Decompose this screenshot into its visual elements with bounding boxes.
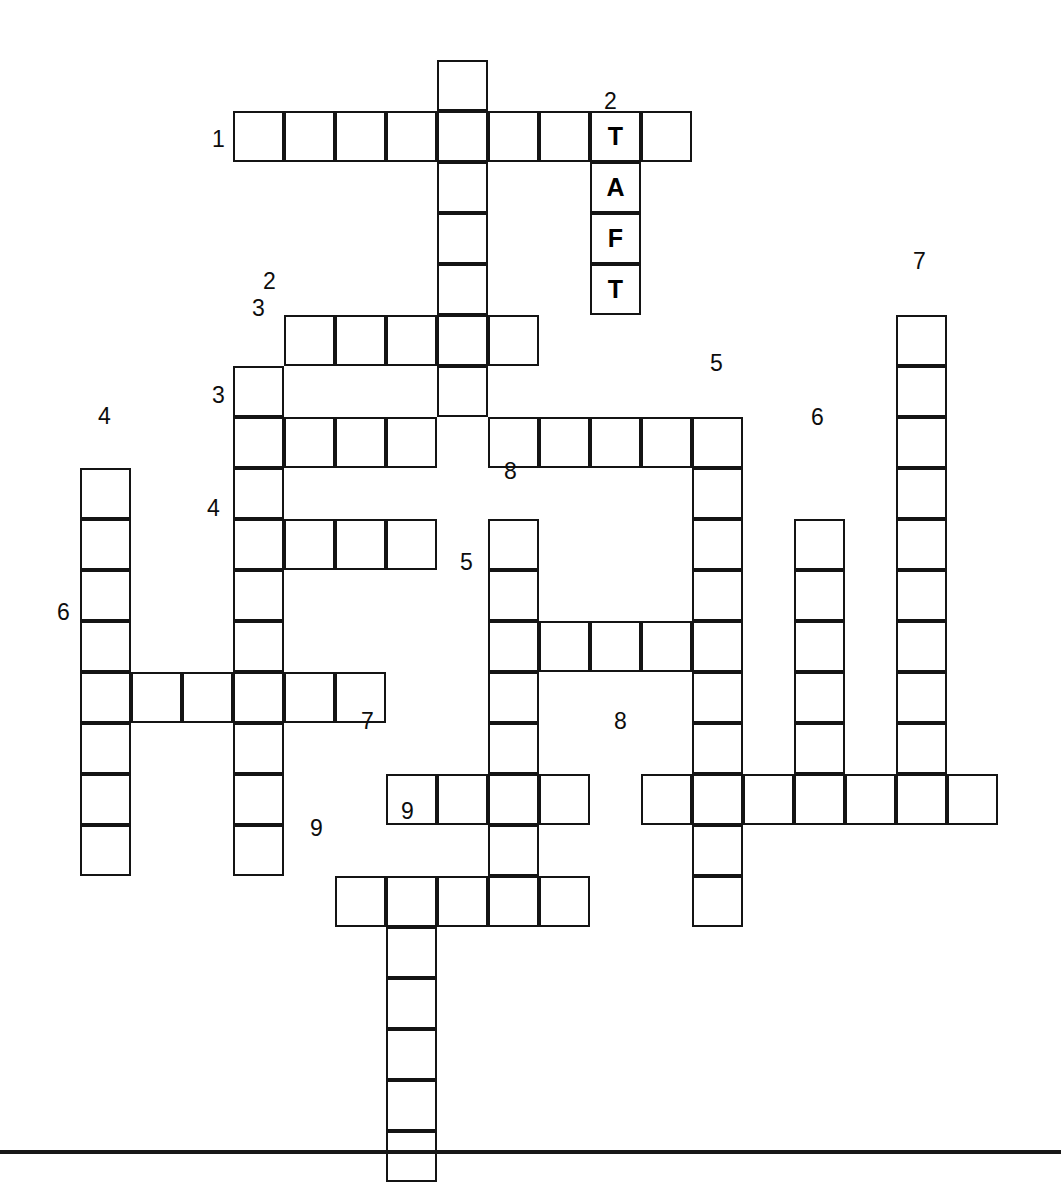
crossword-cell-empty[interactable]: [794, 621, 845, 672]
crossword-cell-empty[interactable]: [896, 570, 947, 621]
crossword-cell-empty[interactable]: [641, 417, 692, 468]
crossword-cell-empty[interactable]: [692, 621, 743, 672]
crossword-cell-empty[interactable]: [80, 672, 131, 723]
crossword-cell-empty[interactable]: [437, 366, 488, 417]
crossword-cell-empty[interactable]: [80, 825, 131, 876]
crossword-cell-empty[interactable]: [488, 723, 539, 774]
crossword-cell-empty[interactable]: [896, 315, 947, 366]
crossword-cell-empty[interactable]: [386, 876, 437, 927]
crossword-cell-empty[interactable]: [896, 774, 947, 825]
crossword-cell-empty[interactable]: [233, 570, 284, 621]
crossword-cell-empty[interactable]: [335, 315, 386, 366]
crossword-cell-empty[interactable]: [539, 417, 590, 468]
crossword-cell-empty[interactable]: [386, 519, 437, 570]
crossword-cell-empty[interactable]: [488, 111, 539, 162]
crossword-cell-empty[interactable]: [896, 468, 947, 519]
crossword-cell-empty[interactable]: [386, 1131, 437, 1182]
crossword-cell-empty[interactable]: [80, 570, 131, 621]
crossword-cell-empty[interactable]: [80, 468, 131, 519]
crossword-cell-empty[interactable]: [488, 774, 539, 825]
crossword-cell-empty[interactable]: [692, 825, 743, 876]
crossword-cell-empty[interactable]: [488, 519, 539, 570]
crossword-cell-empty[interactable]: [284, 111, 335, 162]
crossword-cell-empty[interactable]: [641, 111, 692, 162]
crossword-cell-empty[interactable]: [539, 876, 590, 927]
crossword-cell-empty[interactable]: [386, 1029, 437, 1080]
crossword-cell-empty[interactable]: [692, 723, 743, 774]
crossword-cell-empty[interactable]: [794, 774, 845, 825]
crossword-cell-empty[interactable]: [233, 774, 284, 825]
crossword-cell-empty[interactable]: [335, 417, 386, 468]
crossword-cell-empty[interactable]: [386, 315, 437, 366]
crossword-cell-empty[interactable]: [284, 315, 335, 366]
crossword-cell-empty[interactable]: [437, 213, 488, 264]
crossword-cell-empty[interactable]: [437, 264, 488, 315]
crossword-cell-empty[interactable]: [539, 774, 590, 825]
crossword-cell-empty[interactable]: [386, 111, 437, 162]
crossword-cell-empty[interactable]: [692, 570, 743, 621]
crossword-cell-empty[interactable]: [80, 519, 131, 570]
crossword-cell-empty[interactable]: [692, 417, 743, 468]
crossword-cell-empty[interactable]: [488, 315, 539, 366]
crossword-cell-empty[interactable]: [233, 825, 284, 876]
crossword-cell-empty[interactable]: [335, 111, 386, 162]
crossword-cell-empty[interactable]: [488, 672, 539, 723]
crossword-cell-empty[interactable]: [488, 825, 539, 876]
crossword-cell-empty[interactable]: [794, 672, 845, 723]
crossword-cell-empty[interactable]: [437, 315, 488, 366]
crossword-cell-empty[interactable]: [233, 723, 284, 774]
crossword-cell-empty[interactable]: [233, 417, 284, 468]
crossword-cell-empty[interactable]: [335, 519, 386, 570]
crossword-cell-empty[interactable]: [233, 111, 284, 162]
crossword-cell-empty[interactable]: [80, 621, 131, 672]
crossword-cell-empty[interactable]: [233, 672, 284, 723]
crossword-cell-empty[interactable]: [794, 519, 845, 570]
crossword-cell-empty[interactable]: [80, 723, 131, 774]
crossword-cell-empty[interactable]: [437, 876, 488, 927]
crossword-cell-empty[interactable]: [896, 417, 947, 468]
crossword-cell-empty[interactable]: [692, 519, 743, 570]
crossword-cell-empty[interactable]: [794, 723, 845, 774]
crossword-cell-empty[interactable]: [794, 570, 845, 621]
crossword-cell-filled[interactable]: T: [590, 111, 641, 162]
crossword-cell-empty[interactable]: [896, 519, 947, 570]
crossword-cell-empty[interactable]: [641, 621, 692, 672]
crossword-cell-empty[interactable]: [437, 60, 488, 111]
crossword-cell-empty[interactable]: [539, 621, 590, 672]
crossword-cell-empty[interactable]: [641, 774, 692, 825]
crossword-cell-empty[interactable]: [488, 876, 539, 927]
crossword-cell-empty[interactable]: [233, 366, 284, 417]
crossword-cell-empty[interactable]: [284, 519, 335, 570]
crossword-cell-empty[interactable]: [131, 672, 182, 723]
crossword-cell-filled[interactable]: T: [590, 264, 641, 315]
crossword-cell-empty[interactable]: [896, 723, 947, 774]
crossword-cell-filled[interactable]: A: [590, 162, 641, 213]
crossword-cell-empty[interactable]: [80, 774, 131, 825]
crossword-cell-empty[interactable]: [437, 162, 488, 213]
crossword-cell-empty[interactable]: [233, 621, 284, 672]
crossword-cell-empty[interactable]: [437, 774, 488, 825]
crossword-cell-empty[interactable]: [233, 519, 284, 570]
crossword-cell-empty[interactable]: [182, 672, 233, 723]
crossword-cell-empty[interactable]: [692, 468, 743, 519]
crossword-cell-empty[interactable]: [539, 111, 590, 162]
crossword-cell-empty[interactable]: [386, 927, 437, 978]
crossword-cell-empty[interactable]: [692, 876, 743, 927]
crossword-cell-empty[interactable]: [896, 672, 947, 723]
crossword-cell-empty[interactable]: [590, 621, 641, 672]
crossword-cell-empty[interactable]: [386, 978, 437, 1029]
crossword-cell-empty[interactable]: [437, 111, 488, 162]
crossword-cell-empty[interactable]: [488, 621, 539, 672]
crossword-cell-empty[interactable]: [692, 774, 743, 825]
crossword-cell-filled[interactable]: F: [590, 213, 641, 264]
crossword-cell-empty[interactable]: [335, 876, 386, 927]
crossword-cell-empty[interactable]: [284, 417, 335, 468]
crossword-cell-empty[interactable]: [896, 621, 947, 672]
crossword-cell-empty[interactable]: [386, 417, 437, 468]
crossword-cell-empty[interactable]: [488, 570, 539, 621]
crossword-cell-empty[interactable]: [845, 774, 896, 825]
crossword-cell-empty[interactable]: [233, 468, 284, 519]
crossword-cell-empty[interactable]: [284, 672, 335, 723]
crossword-cell-empty[interactable]: [743, 774, 794, 825]
crossword-cell-empty[interactable]: [590, 417, 641, 468]
